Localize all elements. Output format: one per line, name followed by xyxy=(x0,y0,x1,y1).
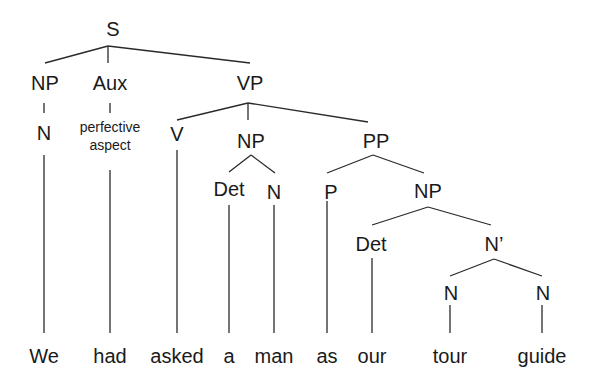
node-asp2: aspect xyxy=(89,137,130,153)
tree-edge xyxy=(327,155,373,173)
node-v: V xyxy=(170,123,184,145)
leaf-word: a xyxy=(223,345,235,367)
tree-edge xyxy=(251,155,275,173)
node-n4: N xyxy=(536,282,550,304)
tree-edge xyxy=(45,46,108,63)
node-nbar: N’ xyxy=(485,233,504,255)
tree-edge xyxy=(428,207,491,225)
node-pp: PP xyxy=(363,130,390,152)
tree-edge xyxy=(450,259,494,276)
node-np2: NP xyxy=(237,130,265,152)
leaf-word: We xyxy=(29,345,59,367)
leaf-word: had xyxy=(93,345,126,367)
node-np3: NP xyxy=(414,180,442,202)
tree-edge xyxy=(494,259,542,276)
tree-leaves: Wehadaskedamanasourtourguide xyxy=(29,345,566,367)
node-vp: VP xyxy=(237,72,264,94)
tree-edge xyxy=(177,103,248,120)
leaf-word: tour xyxy=(433,345,468,367)
node-asp1: perfective xyxy=(80,119,141,135)
node-aux: Aux xyxy=(93,72,127,94)
syntax-tree: SNPAuxVPNperfectiveaspectVNPPPDetNPNPDet… xyxy=(0,0,593,389)
leaf-word: asked xyxy=(150,345,203,367)
node-n1: N xyxy=(37,122,51,144)
tree-edge xyxy=(108,46,250,63)
tree-edge xyxy=(248,103,368,122)
tree-nodes: SNPAuxVPNperfectiveaspectVNPPPDetNPNPDet… xyxy=(31,18,550,304)
leaf-word: our xyxy=(358,345,387,367)
tree-edge xyxy=(229,155,251,172)
node-det2: Det xyxy=(355,233,387,255)
node-det1: Det xyxy=(213,178,245,200)
leaf-word: man xyxy=(255,345,294,367)
node-n2: N xyxy=(267,181,281,203)
tree-edge xyxy=(372,207,428,225)
node-s: S xyxy=(106,18,119,40)
tree-edge xyxy=(373,155,424,173)
node-n3: N xyxy=(444,282,458,304)
node-p: P xyxy=(324,181,337,203)
leaf-word: guide xyxy=(518,345,567,367)
leaf-word: as xyxy=(316,345,337,367)
node-np1: NP xyxy=(31,72,59,94)
